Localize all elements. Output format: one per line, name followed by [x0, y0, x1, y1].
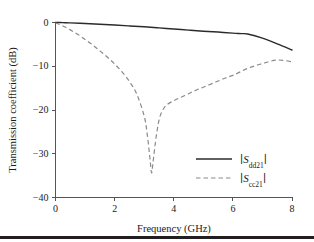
figure-container: 0−10−20−30−40 02468 Frequency (GHz) Tran… — [0, 0, 314, 242]
transmission-coefficient-chart: 0−10−20−30−40 02468 Frequency (GHz) Tran… — [0, 0, 314, 242]
y-axis-title: Transmission coefficient (dB) — [7, 47, 19, 173]
x-tick-label: 0 — [53, 203, 58, 214]
axes — [56, 22, 293, 198]
legend-label-sdd21: ∣Sdd21∣ — [240, 153, 267, 170]
y-tick-label: −30 — [33, 148, 49, 159]
x-axis-ticks: 02468 — [53, 197, 295, 214]
x-axis-title: Frequency (GHz) — [137, 223, 211, 235]
footer-rule — [0, 236, 314, 239]
y-tick-label: 0 — [44, 17, 49, 28]
legend-label-scc21: ∣Scc21∣ — [240, 172, 266, 189]
y-axis-ticks: 0−10−20−30−40 — [33, 17, 56, 203]
series-line-sdd21 — [56, 22, 293, 50]
y-tick-label: −10 — [33, 60, 49, 71]
y-tick-label: −40 — [33, 192, 49, 203]
x-tick-label: 2 — [112, 203, 117, 214]
y-tick-label: −20 — [33, 104, 49, 115]
data-series — [56, 22, 293, 173]
series-line-scc21 — [56, 23, 293, 173]
x-tick-label: 8 — [290, 203, 295, 214]
x-tick-label: 6 — [230, 203, 235, 214]
legend: ∣Sdd21∣ ∣Scc21∣ — [196, 153, 267, 189]
x-tick-label: 4 — [171, 203, 176, 214]
